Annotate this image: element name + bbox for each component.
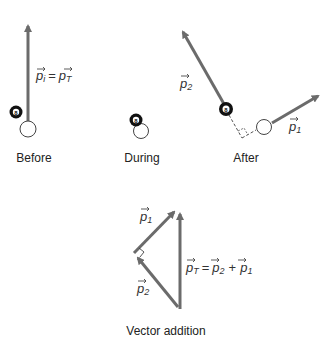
p1-label: p1 <box>288 119 301 135</box>
before-caption: Before <box>16 151 52 165</box>
eight-ball: 8 <box>130 114 143 127</box>
collision-diagram: 8 pi=pT Before 8 During 8 p2 <box>0 0 336 352</box>
after-caption: After <box>233 151 258 165</box>
before-panel: 8 pi=pT Before <box>10 26 74 165</box>
eight-ball: 8 <box>219 102 233 116</box>
p2-label: p2 <box>179 76 192 92</box>
cue-ball <box>20 121 36 137</box>
vector-addition-caption: Vector addition <box>126 324 205 338</box>
after-panel: 8 p2 p1 After <box>179 32 318 165</box>
sum-equation: pT=p2+p1 <box>185 260 252 276</box>
during-panel: 8 During <box>124 114 159 166</box>
svg-text:pi=pT: pi=pT <box>35 68 73 84</box>
dashed-line <box>229 115 242 138</box>
during-caption: During <box>124 151 159 165</box>
right-angle-icon <box>139 248 144 257</box>
before-equation: pi=pT <box>35 67 73 84</box>
p1-label: p1 <box>139 209 152 225</box>
dashed-line <box>242 130 256 138</box>
eight-ball: 8 <box>10 106 23 119</box>
vector-addition-panel: p1 p2 pT=p2+p1 Vector addition <box>126 207 252 338</box>
p2-label: p2 <box>136 281 149 297</box>
p2-arrow <box>183 32 224 104</box>
cue-ball <box>257 120 272 135</box>
